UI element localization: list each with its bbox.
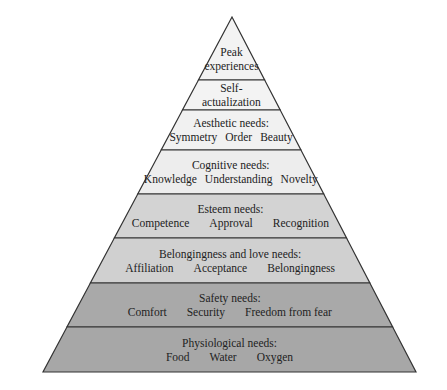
tier-item: Food: [166, 350, 190, 364]
tier-label: Physiological needs:FoodWaterOxygen: [43, 336, 416, 364]
tier-items: AffiliationAcceptanceBelongingness: [90, 261, 369, 275]
tier-title: Peak: [198, 45, 264, 59]
tier-items: SymmetryOrderBeauty: [161, 130, 301, 144]
tier-label: Self-actualization: [182, 81, 280, 109]
tier-item: Acceptance: [194, 261, 248, 275]
tier-label: Peakexperiences: [198, 45, 264, 73]
tier-label: Esteem needs:CompetenceApprovalRecogniti…: [114, 202, 346, 230]
tier-title-line2: experiences: [198, 59, 264, 73]
tier-title: Cognitive needs:: [138, 158, 324, 172]
tier-label: Belongingness and love needs:Affiliation…: [90, 247, 369, 275]
tier-item: Comfort: [128, 305, 167, 319]
tier-title: Self-: [182, 81, 280, 95]
tier-title: Physiological needs:: [43, 336, 416, 350]
tier-title-line2: actualization: [182, 95, 280, 109]
tier-title: Aesthetic needs:: [161, 116, 301, 130]
tier-item: Oxygen: [257, 350, 293, 364]
tier-label: Aesthetic needs:SymmetryOrderBeauty: [161, 116, 301, 144]
tier-item: Belongingness: [267, 261, 335, 275]
tier-item: Order: [225, 130, 252, 144]
tier-label: Cognitive needs:KnowledgeUnderstandingNo…: [138, 158, 324, 186]
tier-label: Safety needs:ComfortSecurityFreedom from…: [67, 291, 393, 319]
tier-item: Approval: [209, 216, 252, 230]
tier-item: Beauty: [260, 130, 293, 144]
tier-title: Belongingness and love needs:: [90, 247, 369, 261]
tier-title: Esteem needs:: [114, 202, 346, 216]
tier-item: Understanding: [205, 172, 273, 186]
tier-items: ComfortSecurityFreedom from fear: [67, 305, 393, 319]
tier-item: Affiliation: [125, 261, 173, 275]
tier-item: Novelty: [281, 172, 318, 186]
tier-title: Safety needs:: [67, 291, 393, 305]
tier-item: Symmetry: [169, 130, 217, 144]
tier-item: Knowledge: [144, 172, 197, 186]
tier-items: KnowledgeUnderstandingNovelty: [138, 172, 324, 186]
tier-item: Recognition: [273, 216, 329, 230]
tier-items: FoodWaterOxygen: [43, 350, 416, 364]
tier-item: Competence: [132, 216, 189, 230]
tier-item: Water: [210, 350, 237, 364]
tier-item: Security: [187, 305, 225, 319]
tier-item: Freedom from fear: [245, 305, 332, 319]
tier-items: CompetenceApprovalRecognition: [114, 216, 346, 230]
